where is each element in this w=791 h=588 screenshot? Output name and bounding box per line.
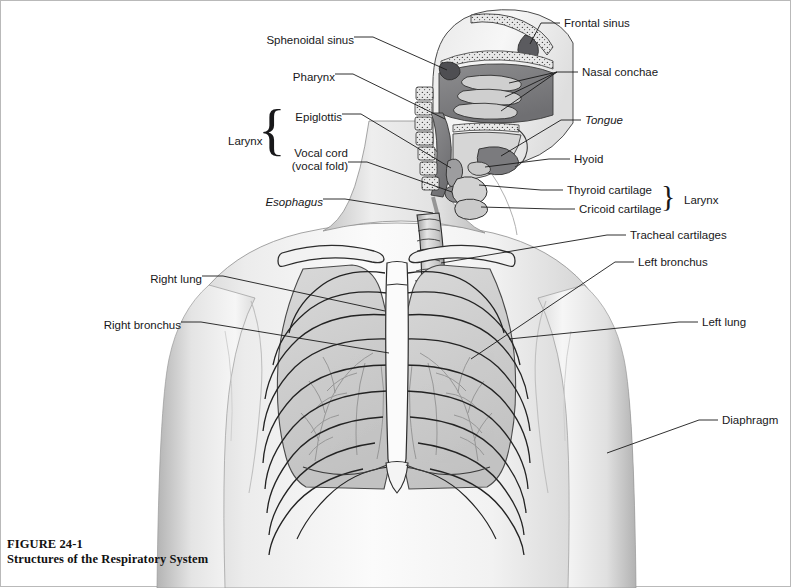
caption-number: FIGURE 24-1	[7, 537, 208, 552]
brace-larynx-right: }	[661, 181, 675, 211]
left-lung	[399, 265, 516, 489]
label-right-bronchus: Right bronchus	[21, 319, 181, 332]
caption-title: Structures of the Respiratory System	[7, 552, 208, 567]
nasal-conchae-shape	[453, 75, 521, 119]
leader-sphenoidal-sinus	[354, 37, 447, 70]
right-lung	[277, 265, 394, 489]
label-tongue: Tongue	[585, 114, 623, 127]
brace-larynx-left: {	[258, 101, 286, 159]
hyoid-shape	[468, 162, 491, 175]
sphenoidal-sinus-shape	[439, 62, 460, 80]
leader-thyroid-cartilage	[479, 185, 563, 190]
label-larynx-right: Larynx	[684, 194, 719, 207]
label-hyoid: Hyoid	[574, 153, 603, 166]
label-tracheal-cartilages: Tracheal cartilages	[630, 229, 727, 242]
label-nasal-conchae: Nasal conchae	[582, 66, 658, 79]
sternum	[386, 262, 409, 494]
figure-caption: FIGURE 24-1 Structures of the Respirator…	[7, 537, 208, 567]
label-pharynx: Pharynx	[195, 71, 335, 84]
label-diaphragm: Diaphragm	[722, 414, 778, 427]
label-right-lung: Right lung	[62, 273, 202, 286]
label-left-lung: Left lung	[702, 316, 746, 329]
label-frontal-sinus: Frontal sinus	[564, 17, 630, 30]
label-left-bronchus: Left bronchus	[638, 256, 708, 269]
label-sphenoidal-sinus: Sphenoidal sinus	[150, 34, 354, 47]
label-esophagus: Esophagus	[153, 196, 323, 209]
label-thyroid-cartilage: Thyroid cartilage	[567, 184, 652, 197]
anatomical-illustration	[1, 1, 791, 588]
leader-cricoid-cartilage	[481, 207, 575, 209]
label-cricoid-cartilage: Cricoid cartilage	[579, 203, 661, 216]
cricoid-cartilage-shape	[455, 199, 488, 219]
